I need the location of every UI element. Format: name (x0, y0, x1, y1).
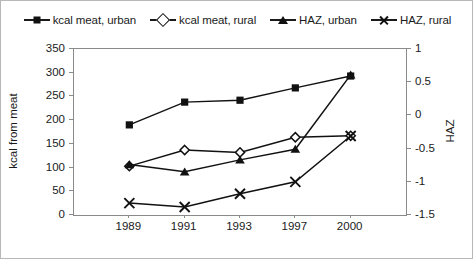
filled-triangle-marker-icon (270, 13, 296, 27)
filled-square-marker-icon (181, 99, 188, 106)
y-axis-left-title-text: kcal from meat (7, 93, 19, 168)
filled-square-marker-icon (24, 13, 50, 27)
series-3 (125, 70, 356, 175)
y-axis-right-title-text: HAZ (443, 120, 455, 143)
series-2 (125, 131, 356, 171)
y-axis-right-tick-label: 1 (415, 42, 455, 54)
filled-square-marker-icon (126, 121, 133, 128)
y-axis-left-tick-label: 100 (25, 161, 65, 173)
open-diamond-marker-icon (150, 13, 176, 27)
y-axis-right-tick-label: -1.5 (415, 208, 455, 220)
y-axis-right-tick-label: 0 (415, 108, 455, 120)
legend-label: HAZ, urban (299, 14, 357, 26)
x-axis-tick-label: 1989 (116, 220, 142, 232)
open-diamond-marker-icon (180, 145, 189, 154)
y-axis-left-title: kcal from meat (5, 48, 21, 214)
y-axis-right-title: HAZ (441, 48, 457, 214)
series-canvas (74, 49, 406, 215)
y-axis-right-tick-label: -0.5 (415, 142, 455, 154)
y-axis-left-tick-label: 200 (25, 113, 65, 125)
legend-label: kcal meat, rural (179, 14, 256, 26)
y-axis-left-tick-label: 150 (25, 137, 65, 149)
legend-item-kcal-meat-rural: kcal meat, rural (150, 13, 256, 27)
filled-square-marker-icon (292, 84, 299, 91)
y-axis-right-tick-label: 0.5 (415, 75, 455, 87)
filled-triangle-marker-icon (291, 145, 301, 153)
series-4 (124, 131, 355, 212)
x-axis-tick-label: 2000 (337, 220, 363, 232)
y-axis-left-tick-label: 0 (25, 208, 65, 220)
y-axis-left-tick-label: 300 (25, 66, 65, 78)
chart-figure: kcal meat, urban kcal meat, rural HAZ, u… (0, 0, 473, 259)
legend-item-haz-rural: HAZ, rural (371, 13, 451, 27)
y-axis-left-tick-label: 50 (25, 184, 65, 196)
y-axis-left-tick-label: 250 (25, 89, 65, 101)
y-axis-left-tick-label: 350 (25, 42, 65, 54)
y-axis-right-tick-label: -1 (415, 175, 455, 187)
plot-area (73, 48, 407, 216)
open-diamond-marker-icon (291, 133, 300, 142)
cross-x-marker-icon (371, 13, 397, 27)
filled-square-marker-icon (236, 97, 243, 104)
series-1 (126, 72, 355, 128)
x-axis-tick-label: 1997 (282, 220, 308, 232)
series-line (129, 136, 350, 207)
chart-legend: kcal meat, urban kcal meat, rural HAZ, u… (1, 9, 473, 31)
legend-label: kcal meat, urban (53, 14, 136, 26)
x-axis-tick-label: 1991 (171, 220, 197, 232)
legend-item-kcal-meat-urban: kcal meat, urban (24, 13, 136, 27)
legend-item-haz-urban: HAZ, urban (270, 13, 357, 27)
legend-label: HAZ, rural (400, 14, 451, 26)
x-axis-tick-label: 1993 (226, 220, 252, 232)
